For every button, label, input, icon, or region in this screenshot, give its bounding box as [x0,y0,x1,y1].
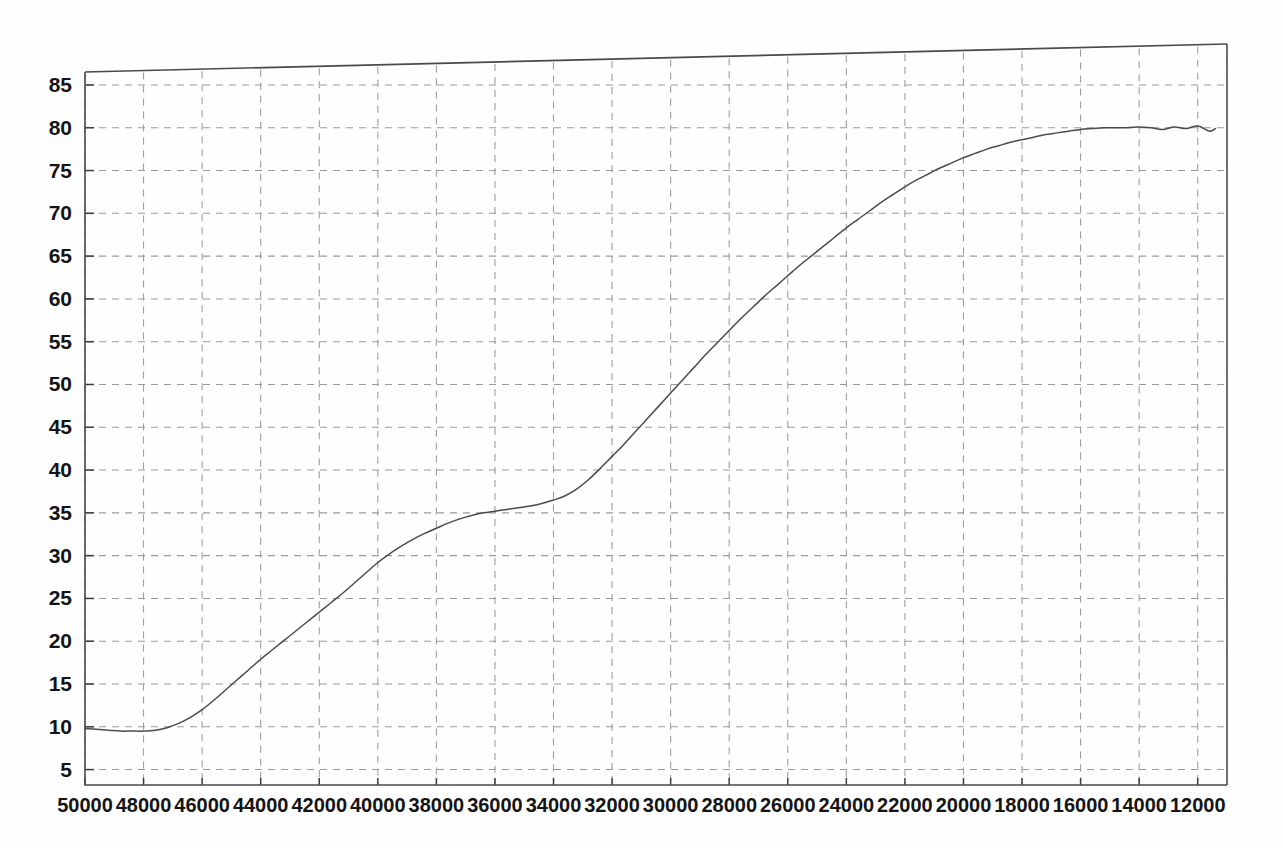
y-tick-label: 40 [49,458,72,481]
y-tick-label: 50 [49,372,72,395]
y-tick-label: 35 [49,501,73,524]
y-tick-label: 10 [49,715,72,738]
x-tick-label: 24000 [819,794,875,816]
x-tick-label: 42000 [291,794,347,816]
x-tick-label: 36000 [467,794,523,816]
axis-frame-layer [85,44,1227,785]
x-tick-label: 34000 [526,794,582,816]
y-tick-label: 30 [49,544,72,567]
x-tick-label: 38000 [409,794,465,816]
y-tick-label: 25 [49,586,73,609]
y-tick-label: 75 [49,159,73,182]
y-axis-tick-labels: 510152025303540455055606570758085 [49,73,73,781]
x-tick-label: 46000 [174,794,230,816]
data-curve [85,126,1215,731]
x-tick-label: 26000 [760,794,816,816]
x-tick-label: 12000 [1170,794,1226,816]
x-tick-label: 22000 [877,794,933,816]
x-tick-label: 32000 [584,794,640,816]
chart-plot-svg: 510152025303540455055606570758085 500004… [0,0,1283,848]
grid-layer [85,47,1226,784]
y-tick-label: 85 [49,73,73,96]
x-tick-label: 20000 [936,794,992,816]
top-border-line [85,44,1227,72]
x-tick-label: 14000 [1111,794,1167,816]
x-tick-label: 40000 [350,794,406,816]
chart-figure: 510152025303540455055606570758085 500004… [0,0,1283,848]
y-tick-label: 60 [49,287,72,310]
axis-frame [85,72,1227,785]
x-axis-tick-labels: 5000048000460004400042000400003800036000… [57,794,1225,816]
x-tick-label: 16000 [1053,794,1109,816]
y-tick-label: 15 [49,672,73,695]
y-tick-label: 20 [49,629,72,652]
x-tick-label: 18000 [994,794,1050,816]
y-tick-label: 80 [49,116,72,139]
y-tick-label: 65 [49,244,73,267]
x-tick-label: 50000 [57,794,113,816]
tick-marks-layer [85,85,1198,785]
x-tick-label: 44000 [233,794,289,816]
x-tick-label: 30000 [643,794,699,816]
x-tick-label: 28000 [701,794,757,816]
y-tick-label: 45 [49,415,73,438]
x-tick-label: 48000 [116,794,172,816]
y-tick-label: 70 [49,201,72,224]
data-curve-layer [85,126,1215,731]
y-tick-label: 5 [60,758,72,781]
y-tick-label: 55 [49,330,73,353]
